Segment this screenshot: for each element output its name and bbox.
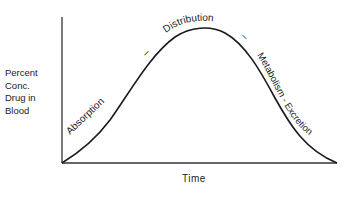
y-axis-label-line: Blood <box>5 105 38 118</box>
x-axis-label: Time <box>182 173 206 184</box>
phase-label-metabolism-excretion: Metabolism - Excretion <box>255 50 315 137</box>
phase-separator-1: – <box>140 46 152 58</box>
y-axis-label-line: Conc. <box>5 80 38 93</box>
y-axis-label-line: Drug in <box>5 92 38 105</box>
phase-label-absorption: Absorption <box>64 96 106 137</box>
y-axis-label: Percent Conc. Drug in Blood <box>5 67 38 117</box>
concentration-curve <box>62 28 337 163</box>
y-axis-label-line: Percent <box>5 67 38 80</box>
phase-separator-2: – <box>239 31 251 43</box>
concentration-time-diagram: Absorption – Distribution – Metabolism -… <box>0 0 351 199</box>
